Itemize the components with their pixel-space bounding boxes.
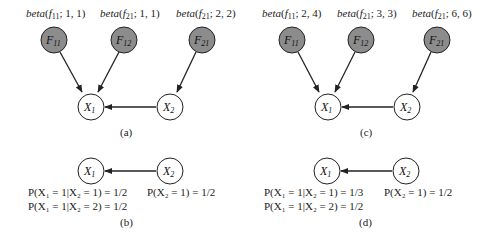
edge-f11-x1	[60, 52, 82, 92]
node-f11: F11	[41, 27, 67, 53]
edge-f12-x1	[335, 52, 355, 92]
prior-label-f11: beta(f11; 2, 4)	[262, 7, 322, 21]
node-x1: X1	[78, 94, 104, 120]
edge-f21-x2	[413, 52, 431, 92]
cpt-x1-given-x2-1: P(X₁ = 1|X₂ = 1) = 1/2	[28, 186, 127, 199]
caption-b: (b)	[120, 216, 133, 229]
prior-label-f12: beta(f21; 1, 1)	[100, 7, 160, 21]
node-x2: X2	[393, 158, 419, 184]
caption-d: (d)	[359, 216, 372, 229]
prior-label-f11: beta(f11; 1, 1)	[26, 7, 86, 21]
node-x1: X1	[314, 158, 340, 184]
node-f21: F21	[189, 27, 215, 53]
edge-f11-x1	[298, 52, 319, 92]
node-x2: X2	[157, 94, 183, 120]
cpt-x1-given-x2-2: P(X₁ = 1|X₂ = 2) = 1/2	[264, 200, 363, 213]
panel-d: X1 X2 P(X₁ = 1|X₂ = 1) = 1/3 P(X₁ = 1|X₂…	[264, 158, 452, 229]
cpt-x1-given-x2-1: P(X₁ = 1|X₂ = 1) = 1/3	[264, 186, 364, 199]
node-f12: F12	[111, 27, 137, 53]
node-x2: X2	[394, 94, 420, 120]
edge-f12-x1	[98, 52, 119, 92]
cpt-x1-given-x2-2: P(X₁ = 1|X₂ = 2) = 1/2	[28, 200, 127, 213]
node-f21: F21	[424, 27, 450, 53]
edge-f21-x2	[177, 52, 196, 92]
caption-a: (a)	[120, 126, 133, 139]
panel-b: X1 X2 P(X₁ = 1|X₂ = 1) = 1/2 P(X₁ = 1|X₂…	[28, 158, 215, 229]
bayesian-network-figure: beta(f11; 1, 1) beta(f21; 1, 1) beta(f21…	[0, 0, 493, 238]
node-x1: X1	[78, 158, 104, 184]
node-x2: X2	[157, 158, 183, 184]
prior-label-f21: beta(f21; 2, 2)	[176, 7, 236, 21]
prob-x2: P(X₂ = 1) = 1/2	[147, 186, 215, 199]
node-x1: X1	[315, 94, 341, 120]
caption-c: (c)	[360, 126, 373, 139]
panel-a: beta(f11; 1, 1) beta(f21; 1, 1) beta(f21…	[26, 7, 236, 139]
prob-x2: P(X₂ = 1) = 1/2	[384, 186, 452, 199]
prior-label-f21: beta(f21; 6, 6)	[412, 7, 472, 21]
panel-c: beta(f11; 2, 4) beta(f21; 3, 3) beta(f21…	[262, 7, 472, 139]
node-f12: F12	[348, 27, 374, 53]
node-f11: F11	[279, 27, 305, 53]
prior-label-f12: beta(f21; 3, 3)	[337, 7, 397, 21]
